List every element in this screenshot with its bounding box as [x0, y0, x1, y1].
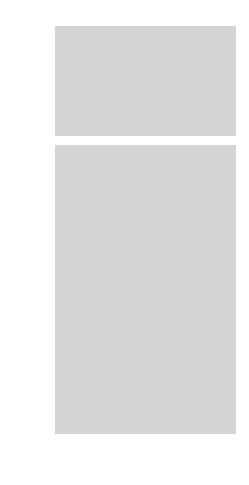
growth-curve-chart — [0, 0, 249, 485]
bottom-panel-background — [55, 145, 236, 434]
top-panel-background — [55, 26, 236, 136]
